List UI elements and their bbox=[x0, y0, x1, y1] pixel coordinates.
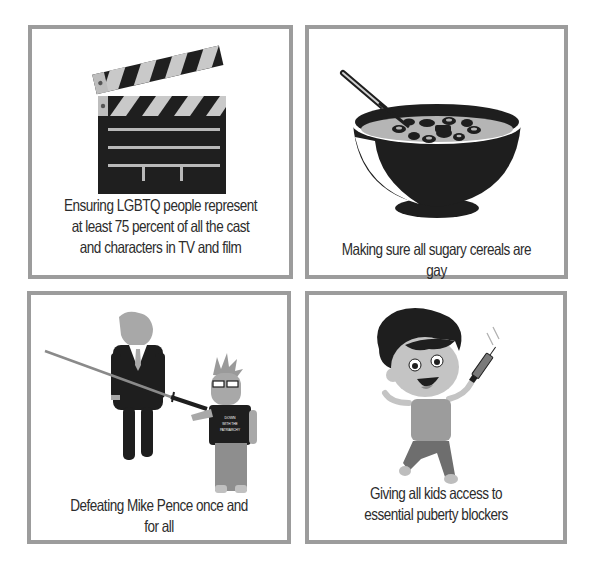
caption-line: at least 75 percent of all the cast bbox=[55, 216, 266, 237]
caption-line: Defeating Mike Pence once and bbox=[54, 495, 264, 516]
kid-figure: DOWN WITH THE PATRIARCHY bbox=[191, 353, 257, 493]
panel-caption: Defeating Mike Pence once and for all bbox=[54, 495, 264, 537]
caption-line: and characters in TV and film bbox=[55, 237, 266, 258]
svg-text:WITH THE: WITH THE bbox=[222, 422, 237, 426]
caption-line: Ensuring LGBTQ people represent bbox=[55, 195, 266, 216]
panel-caption: Giving all kids access to essential pube… bbox=[332, 483, 540, 525]
panel-caption: Making sure all sugary cereals are gay bbox=[332, 239, 541, 281]
panel-caption: Ensuring LGBTQ people represent at least… bbox=[55, 195, 266, 258]
caption-line: for all bbox=[54, 516, 264, 537]
panel-sugary-cereals: Making sure all sugary cereals are gay bbox=[305, 25, 568, 279]
svg-text:PATRIARCHY: PATRIARCHY bbox=[220, 428, 241, 432]
svg-text:DOWN: DOWN bbox=[224, 416, 236, 420]
panel-puberty-blockers: Giving all kids access to essential pube… bbox=[305, 291, 567, 544]
caption-line: essential puberty blockers bbox=[332, 504, 540, 525]
caption-line: Making sure all sugary cereals are gay bbox=[332, 239, 541, 281]
panel-film-representation: Ensuring LGBTQ people represent at least… bbox=[28, 25, 293, 279]
caption-line: Giving all kids access to bbox=[332, 483, 540, 504]
panel-defeating-pence: DOWN WITH THE PATRIARCHY Defeating Mike … bbox=[27, 291, 291, 544]
